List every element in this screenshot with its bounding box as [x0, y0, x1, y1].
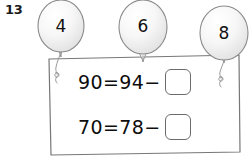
- answer-box-1[interactable]: [165, 69, 191, 95]
- balloon-label-8: 8: [214, 23, 234, 43]
- balloon-neck-2: [139, 53, 147, 62]
- balloon-neck-1: [57, 48, 63, 57]
- balloon-neck-3: [220, 54, 228, 63]
- equation-expression-2: 70=78−: [78, 116, 161, 138]
- equation-row: 70=78−: [78, 112, 191, 142]
- balloon-knot-1: [55, 73, 59, 77]
- answer-box-2[interactable]: [165, 114, 191, 140]
- worksheet-exercise: 13: [0, 0, 250, 158]
- balloon-icon-3[interactable]: [200, 6, 248, 87]
- exercise-number: 13: [5, 3, 23, 17]
- equation-expression-1: 90=94−: [78, 71, 161, 93]
- balloon-label-4: 4: [51, 16, 71, 36]
- balloon-knot-3: [219, 77, 223, 81]
- balloon-label-6: 6: [133, 16, 153, 36]
- balloon-string-3: [220, 60, 224, 87]
- equation-row: 90=94−: [78, 67, 191, 97]
- balloon-string-1: [56, 52, 61, 83]
